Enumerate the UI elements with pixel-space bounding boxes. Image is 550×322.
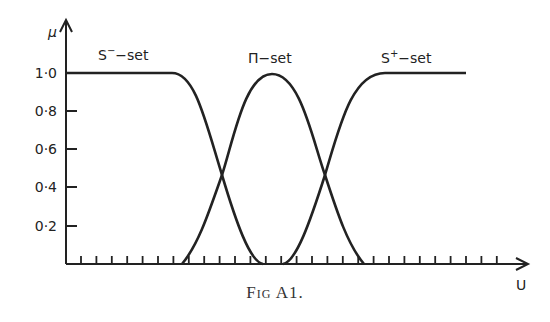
curves [66,73,466,264]
pi-label: Π−set [248,50,292,66]
y-tick-0.8: 0·8 [35,103,57,119]
s-minus-curve [66,73,263,264]
figure-caption: Fig A1. [0,283,550,303]
y-tick-1.0: 1·0 [35,65,57,81]
s-plus-curve [283,73,466,264]
y-tick-0.4: 0·4 [35,179,57,195]
s-minus-label: S−−set [98,45,149,63]
pi-curve [182,74,364,264]
membership-function-chart: 1·0 0·8 0·6 0·4 0·2 μ U S−−set Π−set S+−… [0,0,550,322]
y-tick-0.2: 0·2 [35,218,57,234]
y-axis-label: μ [47,24,57,40]
y-tick-0.6: 0·6 [35,141,57,157]
s-plus-label: S+−set [381,48,432,66]
